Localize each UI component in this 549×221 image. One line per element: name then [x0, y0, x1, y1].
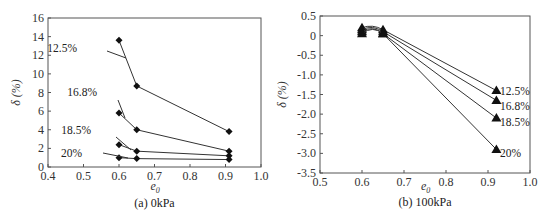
x-tick-label: 1.0	[254, 169, 269, 183]
y-tick-label: 0.5	[301, 9, 316, 23]
y-tick-label: 0	[38, 160, 44, 174]
panel-caption: (a) 0kPa	[134, 196, 175, 210]
y-tick-label: 16	[32, 11, 44, 25]
chart-panel-100kpa: 0.50.60.70.80.91.00.50-0.5-1.0-1.5-2.0-2…	[275, 9, 538, 209]
figure: 0.40.50.60.70.80.91.00246810121416δ (%)e…	[0, 0, 549, 221]
x-tick-label: 0.7	[397, 175, 412, 189]
series-label: 12.5%	[500, 85, 530, 97]
series-label: 16.8%	[500, 100, 530, 112]
y-tick-label: 0	[310, 29, 316, 43]
y-tick-label: -2.0	[297, 107, 316, 121]
y-tick-label: 14	[32, 30, 44, 44]
diamond-marker-icon	[226, 128, 233, 135]
series-label: 18.5%	[500, 116, 530, 128]
diamond-marker-icon	[133, 155, 140, 162]
y-tick-label: -2.5	[297, 127, 316, 141]
y-tick-label: 12	[32, 48, 44, 62]
series-line	[362, 29, 496, 149]
diamond-marker-icon	[133, 148, 140, 155]
chart-panel-0kpa: 0.40.50.60.70.80.91.00246810121416δ (%)e…	[9, 11, 269, 210]
x-tick-label: 0.6	[112, 169, 127, 183]
leader-line	[103, 153, 128, 158]
y-tick-label: -0.5	[297, 48, 316, 62]
series-16-8pct: 16.8%	[357, 25, 530, 112]
y-tick-label: 4	[38, 123, 44, 137]
y-tick-label: -3.5	[297, 166, 316, 180]
diamond-marker-icon	[133, 82, 140, 89]
series-line	[362, 29, 496, 118]
series-18-5pct: 18.5%	[357, 27, 530, 128]
x-tick-label: 0.9	[218, 169, 233, 183]
x-tick-label: 0.8	[439, 175, 454, 189]
x-tick-label: 0.8	[183, 169, 198, 183]
y-tick-label: -3.0	[297, 146, 316, 160]
y-tick-label: 2	[38, 141, 44, 155]
y-axis-title: δ (%)	[9, 79, 23, 106]
diamond-marker-icon	[116, 37, 123, 44]
series-label: 20%	[61, 147, 83, 159]
series-label: 18.5%	[61, 124, 91, 136]
series-18-5pct: 18.5%	[61, 124, 232, 159]
x-axis-title: e0	[421, 179, 430, 195]
x-tick-label: 1.0	[523, 175, 538, 189]
series-16-8pct: 16.8%	[67, 86, 232, 155]
y-tick-label: -1.5	[297, 88, 316, 102]
series-line	[119, 113, 229, 151]
y-tick-label: 6	[38, 104, 44, 118]
series-label: 12.5%	[47, 42, 77, 54]
series-label: 16.8%	[67, 86, 97, 98]
y-tick-label: 10	[32, 67, 44, 81]
series-line	[362, 27, 496, 100]
y-tick-label: 8	[38, 86, 44, 100]
x-tick-label: 0.5	[76, 169, 91, 183]
x-tick-label: 0.6	[355, 175, 370, 189]
y-axis-title: δ (%)	[275, 81, 289, 108]
x-tick-label: 0.9	[481, 175, 496, 189]
panel-caption: (b) 100kPa	[399, 195, 453, 209]
y-tick-label: -1.0	[297, 68, 316, 82]
diamond-marker-icon	[226, 156, 233, 163]
series-label: 20%	[500, 147, 522, 159]
